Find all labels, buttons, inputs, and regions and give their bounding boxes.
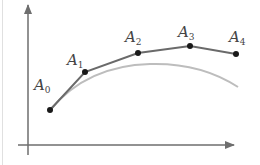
point-a4 xyxy=(233,51,239,57)
label-subscript: 0 xyxy=(45,85,51,95)
label-letter: A xyxy=(229,28,240,46)
label-letter: A xyxy=(34,76,45,94)
label-letter: A xyxy=(125,28,136,46)
point-a3 xyxy=(187,43,193,49)
label-letter: A xyxy=(67,51,78,69)
label-subscript: 1 xyxy=(78,60,84,70)
label-a3: A3 xyxy=(178,25,195,42)
label-letter: A xyxy=(178,23,189,41)
label-subscript: 4 xyxy=(240,37,246,47)
label-a1: A1 xyxy=(67,53,84,70)
label-subscript: 2 xyxy=(136,37,142,47)
smooth-curve xyxy=(50,64,238,110)
point-a0 xyxy=(47,107,53,113)
label-subscript: 3 xyxy=(189,32,195,42)
label-a0: A0 xyxy=(34,78,51,95)
label-a2: A2 xyxy=(125,30,142,47)
label-a4: A4 xyxy=(229,30,246,47)
point-a2 xyxy=(135,50,141,56)
